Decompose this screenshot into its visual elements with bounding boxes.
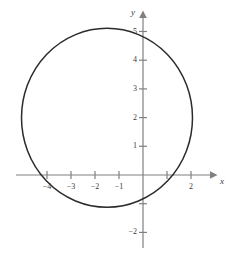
y-axis-arrow-icon: [139, 11, 147, 19]
x-tick-label-minus2: −2: [91, 183, 100, 191]
y-axis-label: y: [131, 8, 135, 17]
x-tick-label-minus4: −4: [43, 183, 52, 191]
x-tick-label-minus1: −1: [115, 183, 124, 191]
circle-curve: [22, 28, 193, 207]
plot-area: [0, 0, 232, 266]
y-tick-label-4: 4: [133, 56, 137, 64]
y-tick-label-3: 3: [133, 85, 137, 93]
y-tick-label-2: 2: [133, 114, 137, 122]
x-tick-label-minus3: −3: [67, 183, 76, 191]
figure-canvas: y x −4 −3 −2 −1 2 5 4 3 2 1 −2: [0, 0, 232, 266]
x-axis-arrow-icon: [210, 171, 218, 179]
y-tick-label-5: 5: [133, 28, 137, 36]
x-axis-label: x: [220, 177, 224, 186]
y-tick-label-minus2: −2: [128, 228, 137, 236]
y-tick-label-1: 1: [133, 142, 137, 150]
x-tick-label-2: 2: [189, 183, 193, 191]
